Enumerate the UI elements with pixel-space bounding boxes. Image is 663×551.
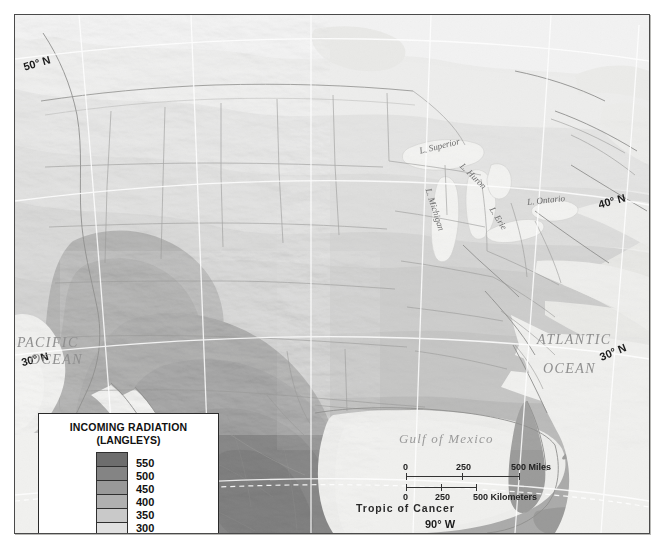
- legend-title-line1: INCOMING RADIATION: [39, 421, 218, 434]
- legend-swatch-0: [97, 453, 127, 467]
- legend-value-550: 550: [136, 457, 154, 470]
- graticule-label-90w: 90° W: [425, 518, 455, 530]
- figure-page: 50° N 40° N 30° N 30° N 110° W 90° W PAC…: [0, 0, 663, 551]
- scale-km-tick-500: 500 Kilometers: [473, 492, 537, 502]
- scale-km-tickmark-0: [406, 484, 407, 491]
- ocean-label-atlantic-ocean: OCEAN: [543, 361, 596, 377]
- scale-bars: 0 250 500 Miles: [403, 462, 583, 510]
- scale-miles-tickmark-1: [462, 473, 463, 480]
- scale-bar-miles: 0 250 500 Miles: [403, 462, 583, 484]
- legend-value-300: 300: [136, 522, 154, 534]
- legend-value-450: 450: [136, 483, 154, 496]
- scale-bar-km-line: [403, 484, 583, 491]
- scale-miles-tick-0: 0: [403, 462, 408, 472]
- scale-bar-kilometers: 0 250 500 Kilometers: [403, 484, 583, 506]
- scale-miles-tick-500: 500 Miles: [511, 462, 551, 472]
- figure-caption: [16, 540, 416, 551]
- scale-km-tick-250: 250: [435, 492, 450, 502]
- map-legend: INCOMING RADIATION (LANGLEYS) 550 500 45…: [38, 413, 219, 534]
- scale-miles-tick-250: 250: [456, 462, 471, 472]
- legend-ramp-wrapper: 550 500 450 400 350 300: [39, 452, 218, 534]
- legend-swatch-5: [97, 523, 127, 534]
- legend-swatch-4: [97, 509, 127, 523]
- legend-title-line2: (LANGLEYS): [39, 434, 218, 446]
- scale-km-tickmark-1: [441, 484, 442, 491]
- ocean-label-pacific-ocean: OCEAN: [30, 352, 83, 368]
- legend-value-350: 350: [136, 509, 154, 522]
- legend-swatch-2: [97, 481, 127, 495]
- scale-miles-tickmark-2: [519, 473, 520, 480]
- scale-km-tickmark-2: [476, 484, 477, 491]
- scale-bar-miles-labels: 0 250 500 Miles: [403, 462, 583, 473]
- scale-bar-km-labels: 0 250 500 Kilometers: [403, 491, 583, 502]
- map-frame: 50° N 40° N 30° N 30° N 110° W 90° W PAC…: [14, 14, 650, 534]
- legend-swatch-1: [97, 467, 127, 481]
- legend-value-500: 500: [136, 470, 154, 483]
- legend-color-ramp: [96, 452, 128, 534]
- legend-value-labels: 550 500 450 400 350 300: [136, 457, 154, 534]
- scale-bar-miles-line: [403, 473, 583, 480]
- scale-miles-tickmark-0: [406, 473, 407, 480]
- ocean-label-atlantic: ATLANTIC: [537, 332, 611, 348]
- legend-swatch-3: [97, 495, 127, 509]
- legend-value-400: 400: [136, 496, 154, 509]
- ocean-label-pacific: PACIFIC: [17, 335, 79, 351]
- water-label-gulf-of-mexico: Gulf of Mexico: [399, 431, 494, 447]
- scale-km-tick-0: 0: [403, 492, 408, 502]
